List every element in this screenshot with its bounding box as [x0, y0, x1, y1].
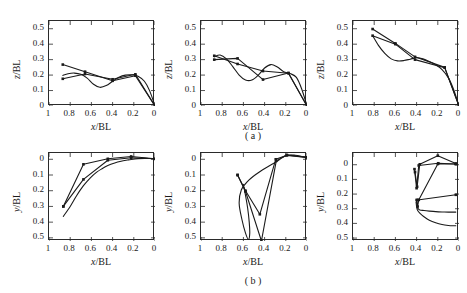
series-curve-5-smooth: [417, 201, 456, 212]
x-axis-label-unit: /BL: [95, 256, 111, 267]
x-tick-label: 0: [449, 244, 467, 253]
plot-box-a2: [200, 20, 306, 105]
y-tick-label: 0.4: [176, 39, 196, 48]
x-tick-label: 1: [39, 109, 57, 118]
x-tick-label: 1: [39, 244, 57, 253]
subfigure-caption-b: ( b ): [203, 276, 303, 286]
data-point-marker: [61, 63, 64, 66]
y-tick-label: 0.4: [328, 39, 348, 48]
subfigure-caption-a: ( a ): [203, 131, 303, 141]
y-axis-label-unit: /BL: [315, 59, 326, 75]
y-tick-label: 0.4: [328, 218, 348, 227]
data-point-marker: [455, 163, 458, 166]
x-tick-label: 1: [343, 109, 361, 118]
data-point-marker: [107, 159, 110, 162]
y-tick-label: 0.3: [24, 201, 44, 210]
data-point-marker: [262, 78, 265, 81]
x-tick-label: 0: [297, 244, 315, 253]
y-tick-label: 0.5: [24, 232, 44, 241]
x-tick-label: 0: [449, 109, 467, 118]
x-tick-label: 0.2: [276, 244, 294, 253]
y-tick-label: 0.2: [176, 185, 196, 194]
plot-box-a3: [352, 20, 458, 105]
y-tick-label: 0.3: [24, 54, 44, 63]
data-point-marker: [62, 205, 65, 208]
data-point-marker: [417, 164, 420, 167]
data-point-marker: [437, 163, 440, 166]
series-curve-2: [214, 58, 307, 106]
y-axis-label-var: z: [163, 75, 174, 79]
y-tick-label: 0: [24, 101, 44, 110]
plot-area-b1: [49, 153, 155, 241]
x-tick-label: 0.8: [212, 109, 230, 118]
y-axis-label-unit: /BL: [315, 192, 326, 208]
x-tick-label: 0.4: [407, 244, 425, 253]
x-tick-label: 0.4: [255, 244, 273, 253]
x-tick-label: 1: [191, 109, 209, 118]
plot-area-b2: [201, 153, 307, 241]
data-point-marker: [260, 240, 263, 241]
y-tick-label: 0.1: [24, 85, 44, 94]
x-tick-label: 0.8: [60, 244, 78, 253]
plot-box-b2: [200, 152, 306, 240]
y-tick-label: 0.2: [328, 70, 348, 79]
y-axis-label-var: z: [315, 75, 326, 79]
data-point-marker: [84, 73, 87, 76]
y-axis-label-var: y: [163, 208, 174, 212]
y-tick-label: 0.2: [24, 70, 44, 79]
y-axis-label: y/BL: [164, 192, 174, 212]
x-axis-label: x/BL: [71, 257, 131, 267]
data-point-marker: [416, 199, 419, 202]
data-point-marker: [82, 163, 85, 166]
series-curve-4-flat: [418, 195, 456, 200]
y-axis-label-unit: /BL: [11, 59, 22, 75]
x-tick-label: 1: [343, 244, 361, 253]
y-tick-label: 0.1: [176, 85, 196, 94]
y-tick-label: 0.3: [328, 203, 348, 212]
series-curve-1: [63, 65, 155, 106]
x-tick-label: 0.2: [124, 244, 142, 253]
y-axis-label-var: z: [11, 75, 22, 79]
y-tick-label: 0: [328, 159, 348, 168]
data-point-marker: [61, 78, 64, 81]
y-axis-label-unit: /BL: [163, 59, 174, 75]
x-axis-label: x/BL: [375, 257, 435, 267]
x-tick-label: 0.4: [255, 109, 273, 118]
series-curve-6-smooth: [416, 202, 456, 226]
y-axis-label: y/BL: [12, 192, 22, 212]
plot-box-b1: [48, 152, 154, 240]
y-tick-label: 0.5: [328, 233, 348, 242]
data-point-marker: [82, 178, 85, 181]
y-tick-label: 0.1: [176, 170, 196, 179]
series-curve-2: [238, 155, 307, 241]
x-axis-label-unit: /BL: [399, 121, 415, 132]
y-tick-label: 0.4: [24, 217, 44, 226]
x-tick-label: 0.2: [428, 109, 446, 118]
data-point-marker: [413, 168, 416, 171]
y-tick-label: 0.3: [328, 54, 348, 63]
x-tick-label: 0.2: [276, 109, 294, 118]
data-point-marker: [437, 154, 440, 157]
x-tick-label: 0: [297, 109, 315, 118]
x-axis-label: x/BL: [71, 122, 131, 132]
x-tick-label: 0.2: [124, 109, 142, 118]
data-point-marker: [259, 213, 262, 216]
data-point-marker: [394, 43, 397, 46]
y-tick-label: 0.4: [24, 39, 44, 48]
x-tick-label: 1: [191, 244, 209, 253]
data-point-marker: [236, 174, 239, 177]
series-curve-1: [63, 156, 155, 206]
y-tick-label: 0.2: [24, 185, 44, 194]
x-tick-label: 0.6: [81, 244, 99, 253]
data-point-marker: [84, 70, 87, 73]
series-curve-2: [414, 163, 455, 188]
x-axis-label: x/BL: [375, 122, 435, 132]
y-tick-label: 0.1: [328, 85, 348, 94]
y-axis-label: y/BL: [316, 192, 326, 212]
y-tick-label: 0: [176, 154, 196, 163]
x-axis-label-unit: /BL: [399, 256, 415, 267]
series-curve-2: [373, 36, 459, 106]
y-tick-label: 0.2: [176, 70, 196, 79]
y-tick-label: 0.3: [176, 201, 196, 210]
series-curve-3: [417, 164, 456, 207]
